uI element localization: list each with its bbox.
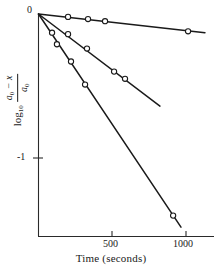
- x-tick-label-1000: 1000: [173, 238, 193, 249]
- series-fastest-run: [39, 14, 181, 227]
- series-slowest-run: [39, 14, 205, 34]
- y-axis-label-denominator: a0: [20, 82, 32, 95]
- data-point-marker: [82, 82, 87, 87]
- trendline-intermediate-run: [39, 14, 160, 106]
- x-tick-label-500: 500: [103, 238, 118, 249]
- denominator-subscript: 0: [24, 84, 32, 88]
- tick-marks: [33, 158, 186, 237]
- y-axis-label-numerator: a0 − x: [4, 73, 16, 102]
- data-point-marker: [85, 16, 90, 21]
- x-axis-label: Time (seconds): [0, 252, 222, 264]
- data-point-marker: [54, 42, 59, 47]
- data-point-marker: [65, 14, 70, 19]
- denominator-symbol: a: [19, 87, 30, 92]
- y-axis-label-log-text: log: [11, 112, 23, 126]
- data-series: [39, 14, 205, 227]
- data-point-marker: [122, 76, 127, 81]
- trendline-fastest-run: [39, 14, 181, 227]
- numerator-tail: − x: [3, 75, 14, 89]
- numerator-subscript: 0: [8, 92, 16, 96]
- data-point-marker: [111, 69, 116, 74]
- y-axis-label-log: log10: [11, 105, 25, 126]
- data-point-marker: [171, 213, 176, 218]
- figure-chart-log-concentration-vs-time: 0 -1 500 1000 log10 a0 − x a0 Time (seco…: [0, 0, 222, 271]
- trendline-slowest-run: [39, 14, 205, 33]
- data-point-marker: [84, 46, 89, 51]
- y-axis-label-fraction: a0 − x a0: [4, 73, 32, 102]
- data-point-marker: [68, 59, 73, 64]
- y-tick-label-0: 0: [27, 4, 32, 15]
- axis-lines: [38, 14, 214, 237]
- y-axis-label: log10 a0 − x a0: [4, 30, 32, 170]
- data-point-marker: [102, 19, 107, 24]
- data-point-marker: [185, 29, 190, 34]
- data-point-marker: [65, 32, 70, 37]
- plot-area: [0, 0, 222, 271]
- series-intermediate-run: [39, 14, 160, 106]
- numerator-symbol: a: [3, 95, 14, 100]
- y-axis-label-log-base: 10: [17, 105, 25, 112]
- data-point-marker: [49, 30, 54, 35]
